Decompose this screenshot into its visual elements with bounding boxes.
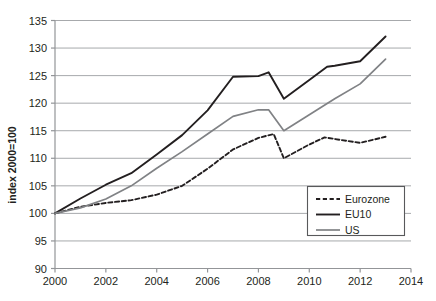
legend-label-eurozone: Eurozone bbox=[345, 193, 390, 205]
x-tick-label: 2004 bbox=[144, 275, 168, 287]
y-axis-ticks: 9095100105110115120125130135 bbox=[29, 15, 55, 275]
x-tick-label: 2002 bbox=[94, 275, 118, 287]
x-tick-label: 2014 bbox=[399, 275, 423, 287]
x-tick-label: 2010 bbox=[297, 275, 321, 287]
x-tick-label: 2006 bbox=[195, 275, 219, 287]
y-tick-label: 100 bbox=[29, 207, 47, 219]
legend-label-us: US bbox=[345, 224, 360, 236]
x-tick-label: 2012 bbox=[348, 275, 372, 287]
x-tick-label: 2008 bbox=[246, 275, 270, 287]
y-tick-label: 110 bbox=[29, 152, 47, 164]
x-axis-ticks: 20002002200420062008201020122014 bbox=[43, 269, 423, 287]
x-tick-label: 2000 bbox=[43, 275, 67, 287]
y-tick-label: 90 bbox=[35, 263, 47, 275]
y-tick-label: 125 bbox=[29, 70, 47, 82]
legend-label-eu10: EU10 bbox=[345, 208, 371, 220]
y-axis-title: index 2000=100 bbox=[6, 126, 18, 204]
y-tick-label: 135 bbox=[29, 15, 47, 27]
line-chart: 9095100105110115120125130135 20002002200… bbox=[0, 0, 436, 301]
chart-legend: EurozoneEU10US bbox=[308, 187, 405, 236]
y-tick-label: 120 bbox=[29, 97, 47, 109]
chart-canvas: 9095100105110115120125130135 20002002200… bbox=[0, 0, 436, 301]
y-tick-label: 105 bbox=[29, 180, 47, 192]
y-tick-label: 95 bbox=[35, 235, 47, 247]
y-tick-label: 130 bbox=[29, 42, 47, 54]
y-tick-label: 115 bbox=[29, 125, 47, 137]
